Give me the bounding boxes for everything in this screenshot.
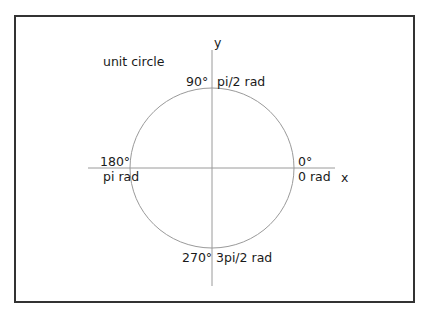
- angle-90-radians: pi/2 rad: [217, 75, 265, 89]
- angle-180-degrees: 180°: [100, 155, 130, 169]
- angle-270-radians: 3pi/2 rad: [216, 251, 272, 265]
- angle-90-degrees: 90°: [186, 75, 208, 89]
- angle-180-radians: pi rad: [103, 170, 139, 184]
- angle-270-degrees: 270°: [182, 251, 212, 265]
- x-axis-label: x: [341, 171, 348, 185]
- angle-0-degrees: 0°: [298, 155, 312, 169]
- angle-0-radians: 0 rad: [298, 170, 331, 184]
- diagram-title: unit circle: [103, 55, 164, 69]
- y-axis-label: y: [214, 36, 221, 50]
